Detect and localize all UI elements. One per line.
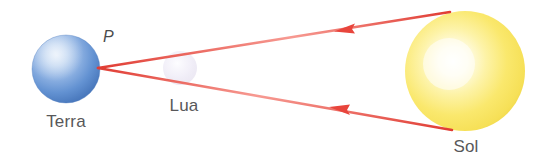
label-point-p: P: [103, 28, 114, 46]
label-sol: Sol: [453, 137, 478, 157]
light-rays: [98, 12, 452, 130]
sun-body: [405, 11, 525, 131]
ray-lower: [98, 68, 452, 130]
solar-eclipse-diagram: Terra Lua Sol P: [0, 0, 543, 163]
label-terra: Terra: [46, 112, 86, 132]
arrowhead-upper: [334, 24, 355, 34]
label-lua: Lua: [170, 96, 199, 116]
earth-body: [32, 35, 100, 103]
ray-upper: [98, 12, 450, 68]
